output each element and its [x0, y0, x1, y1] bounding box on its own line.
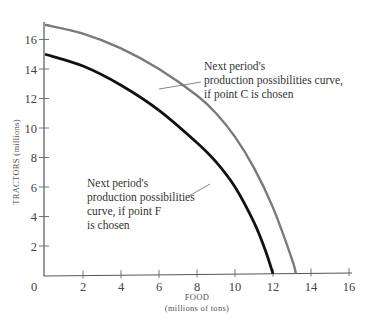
- x-tick-label: 10: [229, 280, 242, 294]
- y-axis-ticks: 246810121416: [25, 33, 50, 254]
- y-tick-label: 14: [25, 63, 38, 77]
- x-axis-ticks: 0246810121416: [31, 268, 355, 294]
- annotation-f-line2: production possibilities: [87, 191, 195, 204]
- x-axis: [44, 273, 352, 276]
- x-tick-label: 0: [31, 280, 37, 294]
- x-tick-label: 12: [267, 280, 280, 294]
- y-tick-label: 4: [31, 210, 38, 224]
- y-tick-label: 2: [31, 240, 37, 254]
- annotation-c-line2: production possibilities curve,: [204, 74, 343, 87]
- x-tick-label: 4: [118, 280, 125, 294]
- y-tick-label: 6: [31, 181, 37, 195]
- x-tick-label: 16: [343, 280, 356, 294]
- annotation-c-line1: Next period's: [204, 60, 266, 73]
- y-tick-label: 12: [25, 92, 38, 106]
- x-axis-title: FOOD: [185, 292, 209, 302]
- y-tick-label: 16: [25, 33, 38, 47]
- x-tick-label: 6: [156, 280, 162, 294]
- annotation-f: Next period's production possibilities c…: [87, 177, 198, 231]
- y-tick-label: 10: [25, 122, 38, 136]
- annotation-c: Next period's production possibilities c…: [204, 60, 346, 101]
- y-axis-title: TRACTORS (millions): [11, 119, 21, 205]
- axes: [44, 22, 352, 276]
- annotation-f-line1: Next period's: [87, 177, 149, 190]
- annotation-c-line3: if point C is chosen: [204, 88, 294, 101]
- ppc-chart: 246810121416 0246810121416 Next period's…: [0, 0, 370, 322]
- annotation-f-line3: curve, if point F: [87, 205, 161, 218]
- annotation-f-line4: is chosen: [87, 219, 130, 231]
- x-tick-label: 2: [80, 280, 86, 294]
- x-axis-subtitle: (millions of tons): [165, 303, 229, 313]
- x-tick-label: 14: [305, 280, 318, 294]
- y-tick-label: 8: [31, 151, 37, 165]
